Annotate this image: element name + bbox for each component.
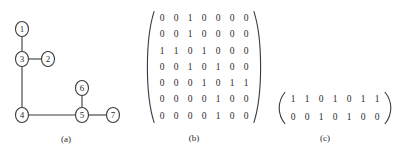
matrix-b-cell: 0	[225, 91, 239, 107]
matrix-c-cell: 0	[370, 109, 384, 125]
matrix-b-cell: 1	[239, 75, 253, 91]
matrix-b-cell: 0	[225, 108, 239, 124]
matrix-c-cell: 0	[328, 109, 342, 125]
matrix-b-cell: 0	[169, 91, 183, 107]
matrix-b-cell: 0	[155, 91, 169, 107]
matrix-b-cell: 0	[239, 91, 253, 107]
matrix-b-row: 0010000	[155, 26, 253, 42]
matrix-c-row: 1101011	[286, 91, 384, 107]
matrix-b-cell: 0	[225, 59, 239, 75]
caption-panel-a: (a)	[46, 134, 86, 144]
caption-panel-b: (b)	[174, 133, 214, 143]
graph-node-7[interactable]: 7	[107, 108, 120, 123]
matrix-b-cell: 0	[183, 108, 197, 124]
graph-node-label-2: 2	[46, 54, 51, 64]
matrix-b-cell: 0	[169, 10, 183, 26]
matrix-b-cell: 1	[211, 59, 225, 75]
matrix-c-cell: 1	[314, 109, 328, 125]
matrix-b-cell: 0	[155, 108, 169, 124]
matrix-b-grid: 0010000001000011010000010100000101100001…	[155, 10, 253, 124]
graph-node-3[interactable]: 3	[16, 52, 29, 67]
matrix-b-cell: 1	[197, 43, 211, 59]
matrix-b-cell: 0	[239, 26, 253, 42]
graph-node-label-7: 7	[111, 110, 116, 120]
matrix-b-cell: 0	[211, 10, 225, 26]
matrix-c-cell: 0	[314, 91, 328, 107]
matrix-b-cell: 0	[239, 59, 253, 75]
matrix-b-row: 0001011	[155, 75, 253, 91]
matrix-b-cell: 0	[169, 108, 183, 124]
graph-node-1[interactable]: 1	[16, 22, 29, 37]
matrix-b-cell: 1	[225, 75, 239, 91]
matrix-b: 0010000001000011010000010100000101100001…	[146, 10, 262, 124]
graph-node-6[interactable]: 6	[76, 81, 89, 96]
matrix-b-cell: 0	[211, 43, 225, 59]
matrix-b-cell: 0	[239, 10, 253, 26]
matrix-b-cell: 0	[197, 59, 211, 75]
matrix-b-cell: 1	[155, 43, 169, 59]
matrix-b-cell: 0	[169, 26, 183, 42]
matrix-b-cell: 0	[183, 43, 197, 59]
matrix-b-cell: 1	[183, 59, 197, 75]
matrix-c-cell: 0	[300, 109, 314, 125]
matrix-b-cell: 0	[169, 59, 183, 75]
graph-node-label-1: 1	[20, 24, 25, 34]
matrix-b-cell: 0	[183, 75, 197, 91]
graph-node-label-6: 6	[80, 83, 85, 93]
graph-node-4[interactable]: 4	[16, 108, 29, 123]
matrix-b-row: 0000100	[155, 91, 253, 107]
matrix-b-cell: 0	[155, 10, 169, 26]
graph-diagram: 1234567	[0, 0, 140, 130]
matrix-b-cell: 0	[225, 10, 239, 26]
matrix-b-cell: 1	[197, 75, 211, 91]
matrix-b-cell: 0	[211, 75, 225, 91]
matrix-b-cell: 0	[169, 75, 183, 91]
matrix-b-row: 1101000	[155, 43, 253, 59]
matrix-b-row: 0000100	[155, 108, 253, 124]
matrix-c-cell: 0	[342, 91, 356, 107]
matrix-b-cell: 0	[225, 43, 239, 59]
matrix-c-left-bracket	[277, 91, 286, 125]
matrix-c-cell: 0	[286, 109, 300, 125]
matrix-b-cell: 0	[155, 75, 169, 91]
caption-panel-c: (c)	[305, 133, 345, 143]
matrix-c: 11010110010100	[277, 91, 393, 125]
matrix-b-row: 0010000	[155, 10, 253, 26]
matrix-b-right-bracket	[253, 10, 262, 124]
matrix-c-cell: 1	[300, 91, 314, 107]
matrix-c-cell: 1	[328, 91, 342, 107]
matrix-b-cell: 0	[239, 43, 253, 59]
matrix-b-cell: 0	[197, 10, 211, 26]
matrix-b-cell: 0	[155, 59, 169, 75]
matrix-b-cell: 1	[183, 10, 197, 26]
matrix-c-cell: 1	[342, 109, 356, 125]
graph-node-5[interactable]: 5	[76, 108, 89, 123]
figure-root: 1234567 (a) 0010000001000011010000010100…	[0, 0, 399, 157]
matrix-c-cell: 1	[356, 91, 370, 107]
graph-node-label-3: 3	[20, 54, 25, 64]
matrix-b-cell: 1	[183, 26, 197, 42]
matrix-c-cell: 1	[286, 91, 300, 107]
matrix-b-cell: 0	[239, 108, 253, 124]
matrix-b-cell: 0	[197, 108, 211, 124]
matrix-b-cell: 1	[211, 91, 225, 107]
matrix-b-cell: 0	[211, 26, 225, 42]
matrix-b-left-bracket	[146, 10, 155, 124]
matrix-c-grid: 11010110010100	[286, 91, 384, 125]
matrix-b-cell: 0	[197, 26, 211, 42]
matrix-b-cell: 0	[197, 91, 211, 107]
graph-node-label-5: 5	[80, 110, 85, 120]
matrix-b-row: 0010100	[155, 59, 253, 75]
matrix-b-cell: 0	[155, 26, 169, 42]
matrix-c-row: 0010100	[286, 109, 384, 125]
matrix-c-right-bracket	[384, 91, 393, 125]
matrix-b-cell: 1	[211, 108, 225, 124]
matrix-c-cell: 0	[356, 109, 370, 125]
graph-node-label-4: 4	[20, 110, 25, 120]
graph-node-2[interactable]: 2	[42, 52, 55, 67]
matrix-b-cell: 0	[225, 26, 239, 42]
matrix-c-cell: 1	[370, 91, 384, 107]
matrix-b-cell: 1	[169, 43, 183, 59]
matrix-b-cell: 0	[183, 91, 197, 107]
